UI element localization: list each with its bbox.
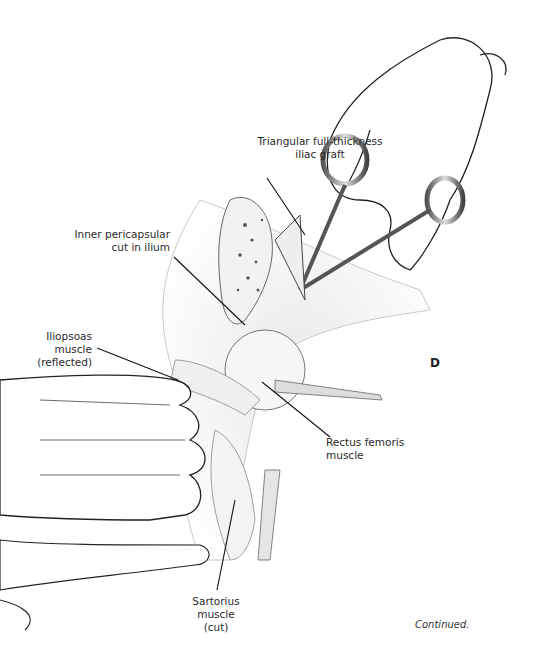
label-iliac-graft: Triangular full-thickness iliac graft [250,135,390,161]
label-line: Sartorius [180,595,252,608]
label-line: Rectus femoris [326,436,436,449]
label-line: muscle [180,608,252,621]
continued-note: Continued. [415,619,470,630]
panel-letter: D [430,356,440,370]
label-sartorius: Sartorius muscle (cut) [180,595,252,634]
label-line: Triangular full-thickness [250,135,390,148]
label-line: muscle [326,449,436,462]
retractor-lower [258,470,280,560]
surgeon-hand-lower [0,375,205,520]
surgical-illustration [0,0,547,645]
label-line: Iliopsoas [20,330,92,343]
label-iliopsoas: Iliopsoas muscle (reflected) [20,330,92,369]
label-line: Inner pericapsular [70,228,170,241]
lower-hand-thumb [0,540,209,590]
label-inner-cut: Inner pericapsular cut in ilium [70,228,170,254]
label-line: iliac graft [250,148,390,161]
label-line: (cut) [180,621,252,634]
label-rectus-femoris: Rectus femoris muscle [326,436,436,462]
lower-hand-finger [0,600,30,630]
label-line: muscle [20,343,92,356]
label-line: cut in ilium [70,241,170,254]
label-line: (reflected) [20,356,92,369]
